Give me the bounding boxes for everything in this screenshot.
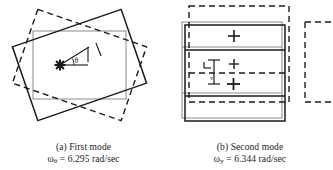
arrow-head-tick-a (96, 43, 101, 56)
caption-line-label-b: (b) Second mode (167, 142, 333, 154)
panel-second-mode: v (b) Second mode ωy = 6.344 rad/sec (167, 0, 333, 170)
dashed-rectangle-b (189, 6, 289, 102)
omega-equals-a: = 6.295 rad/sec (57, 154, 119, 164)
caption-line-value-b: ωy = 6.344 rad/sec (167, 154, 333, 168)
panel-first-mode: θ (a) First mode ωθ = 6.295 rad/sec (0, 0, 167, 170)
caption-line-label-a: (a) First mode (0, 142, 167, 154)
angle-label-a: θ (75, 56, 79, 65)
caption-first-mode: (a) First mode ωθ = 6.295 rad/sec (0, 142, 167, 167)
omega-equals-b: = 6.344 rad/sec (224, 154, 286, 164)
first-mode-diagram: θ (0, 0, 167, 140)
second-mode-diagram: v (167, 0, 333, 140)
dimension-label-b: v (210, 75, 213, 81)
cross-marker-lower-b (227, 78, 240, 90)
mode-shape-figure: θ (a) First mode ωθ = 6.295 rad/sec (0, 0, 333, 170)
cross-marker-upper-b (228, 30, 240, 42)
partial-dashed-rectangle-b (305, 22, 333, 102)
caption-second-mode: (b) Second mode ωy = 6.344 rad/sec (167, 142, 333, 167)
caption-line-value-a: ωθ = 6.295 rad/sec (0, 154, 167, 168)
cross-marker-middle-b (229, 59, 239, 69)
center-star-core-a (58, 63, 63, 68)
